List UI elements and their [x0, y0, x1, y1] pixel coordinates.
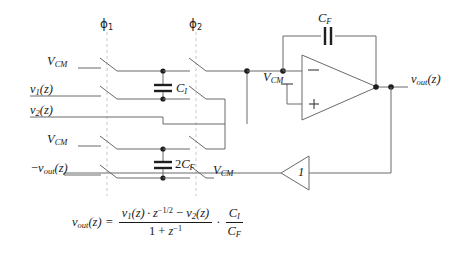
label-vcm-right-switch: VCM	[213, 164, 233, 177]
switch-phi2-row1	[189, 58, 247, 71]
formula-equals: =	[106, 215, 113, 230]
formula-cap-ratio: CI CF	[224, 206, 244, 239]
clock-label-phi2: ϕ2	[189, 18, 202, 31]
formula-lhs: vout(z)	[72, 215, 102, 230]
wire-row5-minus-vout	[64, 165, 163, 178]
switch-phi2-row2	[163, 86, 225, 124]
opamp-vcm-bias-wire	[281, 84, 293, 104]
label-minus-vout: −vout(z)	[31, 162, 68, 175]
clock-label-phi1: ϕ1	[100, 18, 113, 31]
label-vcm-mid: VCM	[47, 133, 67, 146]
formula-main-fraction: v1(z)·z−1/2 − v2(z) 1 + z−1	[119, 206, 213, 240]
formula-ratio-denominator: CF	[224, 223, 244, 239]
formula-denominator: 1 + z−1	[146, 223, 185, 239]
switch-phi2-row4	[189, 124, 225, 149]
label-capacitor-ci: CI	[176, 82, 187, 95]
transfer-function-formula: vout(z) = v1(z)·z−1/2 − v2(z) 1 + z−1 · …	[72, 206, 246, 240]
circuit-diagram-canvas: .w { stroke: #6a6a6a; stroke-width: 1; f…	[0, 0, 462, 256]
opamp-symbol	[283, 55, 377, 120]
wire-row3-v2	[30, 117, 163, 124]
opamp-output-wire	[373, 84, 408, 166]
formula-ratio-numerator: CI	[226, 206, 243, 223]
label-v1-input: v1(z)	[30, 83, 53, 96]
label-vcm-top: VCM	[47, 55, 67, 68]
label-opamp-vcm-bias: VCM	[263, 71, 283, 84]
formula-numerator: v1(z)·z−1/2 − v2(z)	[119, 206, 213, 223]
label-capacitor-cf: CF	[318, 12, 332, 25]
wire-row1-vcm	[78, 58, 163, 71]
label-inverter-gain: 1	[298, 166, 304, 179]
label-capacitor-2cf: 2CF	[175, 158, 195, 171]
formula-multiply: ·	[216, 215, 220, 230]
label-output-vout: vout(z)	[411, 73, 441, 86]
wire-row4-vcm	[78, 136, 163, 149]
label-v2-input: v2(z)	[30, 104, 53, 117]
